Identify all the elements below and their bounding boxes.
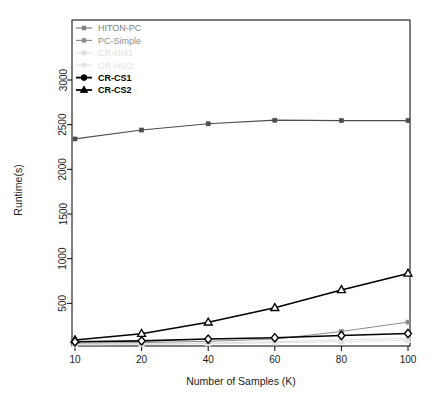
data-point-marker <box>73 137 77 141</box>
x-axis-title: Number of Samples (K) <box>186 375 296 387</box>
x-axis-tick-label: 60 <box>269 354 281 365</box>
legend-label: CR-CS1 <box>98 73 132 83</box>
y-axis-title: Runtime(s) <box>12 164 24 215</box>
chart-canvas: 50010001500200025003000 1020406080100 HI… <box>0 0 432 405</box>
y-axis-tick-label: 500 <box>58 295 69 312</box>
x-axis-tick-label: 40 <box>203 354 215 365</box>
y-axis-tick-label: 1000 <box>58 247 69 270</box>
data-point-marker <box>82 50 87 55</box>
x-axis-tick-label: 10 <box>69 354 81 365</box>
legend-label: CR-HM1 <box>98 48 133 58</box>
runtime-line-chart: 50010001500200025003000 1020406080100 HI… <box>0 0 432 405</box>
x-axis-tick-label: 100 <box>400 354 417 365</box>
data-point-marker <box>406 320 410 324</box>
data-point-marker <box>82 38 86 42</box>
data-point-marker <box>140 128 144 132</box>
chart-background <box>0 0 432 405</box>
y-axis-tick-label: 3000 <box>58 68 69 91</box>
y-axis-tick-label: 1500 <box>58 202 69 225</box>
y-axis-tick-label: 2500 <box>57 113 68 136</box>
legend-label: CR-CS2 <box>98 85 132 95</box>
x-axis-tick-label: 80 <box>336 354 348 365</box>
data-point-marker <box>406 119 410 123</box>
data-point-marker <box>82 26 86 30</box>
legend-label: CR-HM2 <box>98 61 133 71</box>
data-point-marker <box>206 122 210 126</box>
data-point-marker <box>339 119 343 123</box>
data-point-marker <box>273 118 277 122</box>
data-point-marker <box>81 75 87 81</box>
y-axis-tick-label: 2000 <box>58 158 69 181</box>
legend-label: PC-Simple <box>98 36 141 46</box>
legend-label: HITON-PC <box>98 23 142 33</box>
x-axis-tick-label: 20 <box>136 354 148 365</box>
data-point-marker <box>82 63 87 68</box>
